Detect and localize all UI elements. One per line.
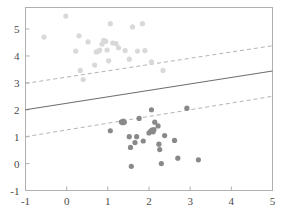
data-point-class-upper (106, 58, 111, 63)
x-tick-label: -1 (21, 195, 30, 207)
data-point-class-upper (76, 33, 81, 38)
data-point-class-lower (129, 164, 134, 169)
data-point-class-lower (151, 127, 156, 132)
x-tick-label: 4 (229, 195, 235, 207)
x-tick-label: 2 (146, 195, 152, 207)
y-tick-label: 1 (14, 131, 20, 143)
data-point-class-lower (159, 161, 164, 166)
y-tick-label: 2 (14, 104, 20, 116)
data-point-class-lower (127, 134, 132, 139)
data-point-class-lower (108, 128, 113, 133)
data-point-class-lower (137, 116, 142, 121)
y-tick-label: 0 (14, 158, 20, 170)
data-point-class-upper (140, 21, 145, 26)
x-tick-label: 1 (105, 195, 111, 207)
data-point-class-upper (130, 24, 135, 29)
data-point-class-upper (116, 45, 121, 50)
data-point-class-upper (85, 39, 90, 44)
data-point-class-upper (97, 47, 102, 52)
scatter-chart: -1012345-1012345 (0, 0, 282, 215)
data-point-class-upper (73, 48, 78, 53)
y-tick-label: 5 (14, 23, 20, 35)
data-point-class-upper (92, 62, 97, 67)
data-point-class-upper (160, 68, 165, 73)
y-tick-label: 3 (14, 77, 20, 89)
data-point-class-lower (162, 133, 167, 138)
x-tick-label: 0 (64, 195, 70, 207)
y-tick-label: -1 (10, 185, 19, 197)
data-point-class-upper (104, 47, 109, 52)
data-point-class-upper (81, 77, 86, 82)
data-point-class-lower (122, 120, 127, 125)
data-point-class-lower (184, 106, 189, 111)
data-point-class-lower (157, 147, 162, 152)
data-point-class-upper (63, 14, 68, 19)
data-point-class-upper (149, 59, 154, 64)
y-tick-label: 4 (14, 50, 20, 62)
data-point-class-lower (175, 156, 180, 161)
data-point-class-lower (149, 107, 154, 112)
plot-frame (26, 8, 273, 191)
data-point-class-lower (134, 134, 139, 139)
data-point-class-lower (156, 142, 161, 147)
data-point-class-lower (141, 138, 146, 143)
data-point-class-upper (103, 39, 108, 44)
data-point-class-upper (127, 57, 132, 62)
data-point-class-lower (128, 145, 133, 150)
data-point-class-upper (123, 48, 128, 53)
x-tick-label: 5 (270, 195, 276, 207)
data-point-class-lower (172, 138, 177, 143)
data-point-class-upper (135, 48, 140, 53)
data-point-class-lower (196, 157, 201, 162)
data-point-class-upper (108, 21, 113, 26)
decision-boundary-line (26, 71, 273, 110)
data-point-class-upper (78, 68, 83, 73)
data-point-class-upper (142, 48, 147, 53)
data-point-class-lower (155, 123, 160, 128)
x-tick-label: 3 (187, 195, 193, 207)
data-point-class-upper (41, 35, 46, 40)
plot-canvas: -1012345-1012345 (0, 0, 282, 215)
upper-margin-line (26, 46, 273, 84)
data-point-class-lower (132, 140, 137, 145)
